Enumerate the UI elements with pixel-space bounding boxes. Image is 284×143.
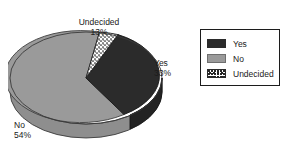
- legend-entries: Yes No Undecided: [207, 36, 275, 81]
- chart-canvas: Undecided 13% Yes 33% No 54% Yes No Und: [0, 0, 284, 143]
- legend-item-no: No: [207, 51, 275, 66]
- pie-chart: Undecided 13% Yes 33% No 54%: [8, 12, 178, 143]
- cut-off-title-remnant: [44, 0, 164, 3]
- pie-label-yes-value: 33%: [154, 68, 188, 78]
- chart-legend: Yes No Undecided: [200, 29, 280, 86]
- pie-label-undecided-text: Undecided: [79, 17, 120, 27]
- legend-item-yes: Yes: [207, 36, 275, 51]
- legend-swatch-undecided-icon: [207, 69, 226, 78]
- legend-label-no: No: [233, 54, 244, 64]
- legend-swatch-no-icon: [207, 54, 226, 63]
- pie-label-no-value: 54%: [14, 130, 48, 140]
- pie-label-undecided: Undecided 13%: [64, 17, 134, 37]
- legend-label-yes: Yes: [233, 39, 247, 49]
- legend-item-undecided: Undecided: [207, 66, 275, 81]
- pie-label-yes: Yes 33%: [154, 58, 188, 78]
- legend-label-undecided: Undecided: [233, 69, 274, 79]
- pie-label-undecided-value: 13%: [64, 27, 134, 37]
- pie-label-no-text: No: [14, 120, 25, 130]
- legend-swatch-yes-icon: [207, 39, 226, 48]
- pie-label-no: No 54%: [14, 120, 48, 140]
- pie-label-yes-text: Yes: [154, 58, 168, 68]
